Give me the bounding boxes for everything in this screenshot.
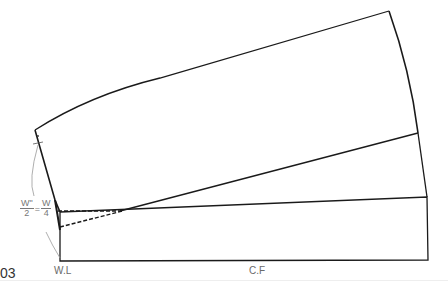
equals-sign: =: [35, 204, 40, 214]
guide-arc: [32, 145, 38, 196]
base-rectangle: [60, 197, 428, 261]
fraction-right: W 4: [41, 199, 52, 218]
waist-line-label: W.L: [54, 266, 71, 276]
rotated-panel-top-edge: [35, 11, 389, 130]
fraction-left: W" 2: [20, 199, 34, 218]
point-marker: [37, 135, 39, 137]
center-front-label: C.F: [249, 266, 265, 276]
dashed-line-lower: [60, 211, 122, 227]
pattern-diagram: [0, 0, 448, 288]
right-edge-extension: [418, 133, 427, 197]
rotated-panel-right-edge: [389, 11, 418, 133]
formula-label: W" 2 = W 4: [20, 199, 51, 218]
divider: [0, 280, 448, 281]
guide-arc-lower: [46, 232, 60, 258]
figure-number: 03: [0, 265, 16, 281]
